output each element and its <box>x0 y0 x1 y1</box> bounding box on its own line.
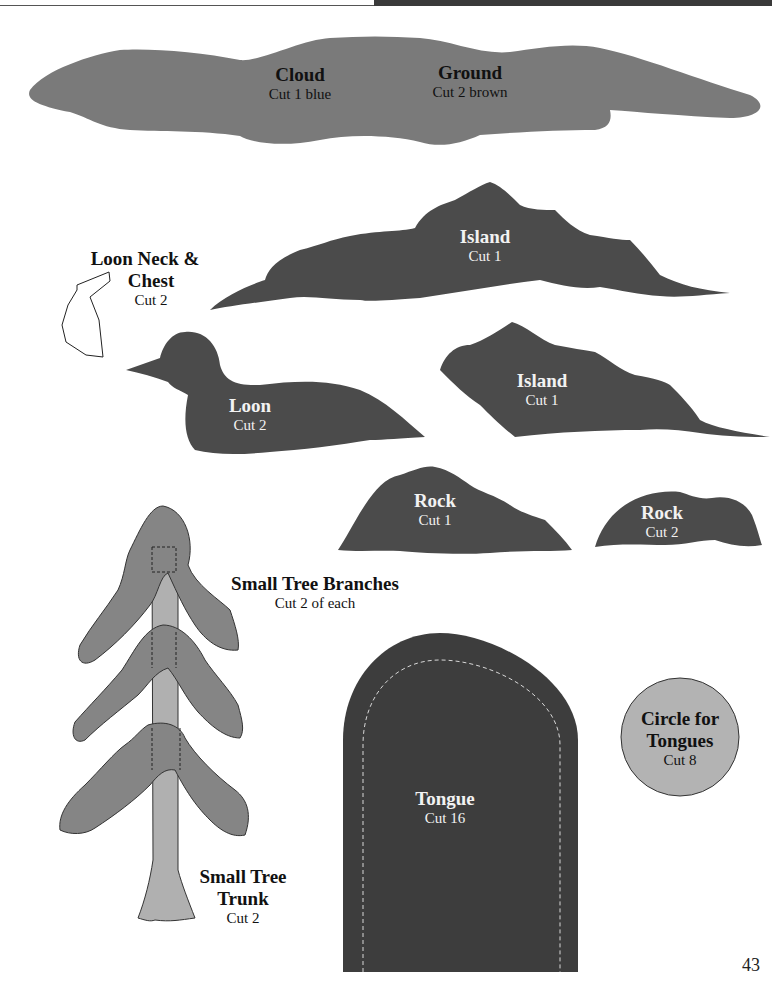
cloud-label: Cloud Cut 1 blue <box>240 64 360 103</box>
island-small-instruction: Cut 1 <box>492 392 592 409</box>
tongue-instruction: Cut 16 <box>400 810 490 827</box>
rock-large-label: Rock Cut 1 <box>395 490 475 529</box>
tongue-label: Tongue Cut 16 <box>400 788 490 827</box>
island-large-title: Island <box>435 226 535 248</box>
ground-label: Ground Cut 2 brown <box>400 62 540 101</box>
loon-neck-instruction: Cut 2 <box>70 292 220 309</box>
cloud-title: Cloud <box>240 64 360 86</box>
tree-branches-title: Small Tree Branches <box>215 573 415 595</box>
tree-trunk-instruction: Cut 2 <box>183 910 303 927</box>
circle-label: Circle for Tongues Cut 8 <box>625 708 735 769</box>
island-large-label: Island Cut 1 <box>435 226 535 265</box>
cloud-ground-shape <box>29 37 760 145</box>
page-number: 43 <box>742 955 760 976</box>
island-small-label: Island Cut 1 <box>492 370 592 409</box>
circle-instruction: Cut 8 <box>625 752 735 769</box>
island-small-title: Island <box>492 370 592 392</box>
rock-small-label: Rock Cut 2 <box>622 502 702 541</box>
rock-small-instruction: Cut 2 <box>622 524 702 541</box>
island-small-shape <box>440 322 770 437</box>
circle-title-line2: Tongues <box>625 730 735 752</box>
ground-instruction: Cut 2 brown <box>400 84 540 101</box>
loon-neck-title-line2: Chest <box>70 270 220 292</box>
rock-large-title: Rock <box>395 490 475 512</box>
tongue-title: Tongue <box>400 788 490 810</box>
loon-label: Loon Cut 2 <box>210 395 290 434</box>
rock-small-title: Rock <box>622 502 702 524</box>
loon-neck-title-line1: Loon Neck & <box>70 248 220 270</box>
tree-trunk-title-line2: Trunk <box>183 888 303 910</box>
loon-neck-label: Loon Neck & Chest Cut 2 <box>70 248 220 309</box>
loon-shape <box>126 332 425 454</box>
tree-branches-instruction: Cut 2 of each <box>215 595 415 612</box>
circle-title-line1: Circle for <box>625 708 735 730</box>
tree-branches-label: Small Tree Branches Cut 2 of each <box>215 573 415 612</box>
tree-trunk-label: Small Tree Trunk Cut 2 <box>183 866 303 927</box>
cloud-instruction: Cut 1 blue <box>240 86 360 103</box>
island-large-instruction: Cut 1 <box>435 248 535 265</box>
loon-title: Loon <box>210 395 290 417</box>
ground-title: Ground <box>400 62 540 84</box>
rock-large-instruction: Cut 1 <box>395 512 475 529</box>
loon-instruction: Cut 2 <box>210 417 290 434</box>
tree-trunk-title-line1: Small Tree <box>183 866 303 888</box>
